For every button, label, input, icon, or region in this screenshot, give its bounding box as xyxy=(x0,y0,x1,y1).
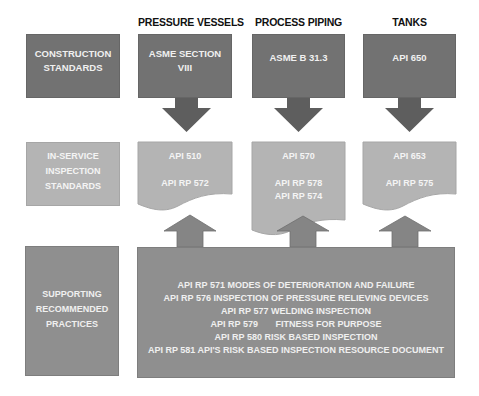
construction-code-text: ASME SECTION VIII xyxy=(147,47,223,75)
down-arrow-icon xyxy=(385,98,435,132)
column-header-tanks: TANKS xyxy=(363,16,456,28)
column-header-process-piping: PROCESS PIPING xyxy=(252,16,345,28)
practice-item: API RP 580 RISK BASED INSPECTION xyxy=(138,331,454,344)
column-header-pressure-vessels: PRESSURE VESSELS xyxy=(138,16,232,28)
inspection-code: API 653 xyxy=(363,150,456,163)
row-label-text: CONSTRUCTION STANDARDS xyxy=(33,47,113,75)
row-label-in-service-inspection: IN-SERVICE INSPECTION STANDARDS xyxy=(26,142,120,206)
down-arrow-icon xyxy=(274,98,324,132)
practice-item: API RP 577 WELDING INSPECTION xyxy=(138,305,454,318)
construction-code-text: API 650 xyxy=(368,51,451,65)
construction-code-text: ASME B 31.3 xyxy=(257,51,340,65)
down-arrow-icon xyxy=(162,98,212,132)
inspection-code: API 510 xyxy=(138,150,232,163)
practice-item: API RP 581 API'S RISK BASED INSPECTION R… xyxy=(138,344,454,357)
construction-box-pressure-vessels: ASME SECTION VIII xyxy=(138,34,232,98)
row-label-text: IN-SERVICE INSPECTION STANDARDS xyxy=(27,143,119,194)
supporting-practices-box: API RP 571 MODES OF DETERIORATION AND FA… xyxy=(137,247,455,378)
row-label-construction-standards: CONSTRUCTION STANDARDS xyxy=(26,34,120,98)
inspection-code: API RP 572 xyxy=(138,177,232,190)
construction-box-process-piping: ASME B 31.3 xyxy=(252,34,345,98)
construction-box-tanks: API 650 xyxy=(363,34,456,98)
spacer xyxy=(252,163,345,177)
practice-item: API RP 579 FITNESS FOR PURPOSE xyxy=(138,318,454,331)
up-arrow-icon xyxy=(164,215,216,247)
inspection-code: API RP 574 xyxy=(252,190,345,203)
row-label-text: SUPPORTING RECOMMENDED PRACTICES xyxy=(30,287,114,332)
inspection-standards-pressure-vessels: API 510 API RP 572 xyxy=(138,150,232,190)
spacer xyxy=(138,163,232,177)
spacer xyxy=(363,163,456,177)
practice-item: API RP 576 INSPECTION OF PRESSURE RELIEV… xyxy=(138,292,454,305)
inspection-standards-tanks: API 653 API RP 575 xyxy=(363,150,456,190)
inspection-standards-process-piping: API 570 API RP 578 API RP 574 xyxy=(252,150,345,203)
up-arrow-icon xyxy=(379,216,431,247)
row-label-supporting-practices: SUPPORTING RECOMMENDED PRACTICES xyxy=(25,246,119,376)
practice-item: API RP 571 MODES OF DETERIORATION AND FA… xyxy=(138,279,454,292)
up-arrow-icon xyxy=(277,216,329,247)
inspection-code: API RP 575 xyxy=(363,177,456,190)
inspection-code: API RP 578 xyxy=(252,177,345,190)
inspection-code: API 570 xyxy=(252,150,345,163)
